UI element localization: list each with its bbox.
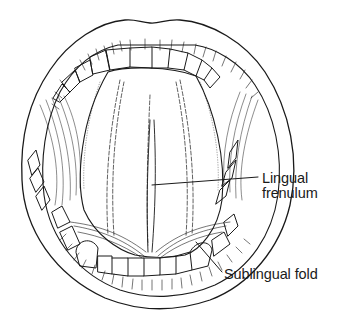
upper-teeth bbox=[53, 47, 220, 102]
label-sublingual-fold: Sublingual fold bbox=[224, 267, 318, 282]
label-line-2: frenulum bbox=[262, 186, 318, 201]
upper-lip-hatching bbox=[52, 39, 258, 109]
label-line-1: Lingual bbox=[262, 171, 318, 186]
label-lingual-frenulum: Lingual frenulum bbox=[262, 171, 318, 201]
frenulum-leader-line bbox=[152, 177, 258, 185]
lower-teeth bbox=[52, 206, 238, 276]
deep-lingual-veins bbox=[107, 80, 193, 245]
tongue-stippling bbox=[84, 82, 219, 190]
side-teeth bbox=[28, 140, 238, 210]
